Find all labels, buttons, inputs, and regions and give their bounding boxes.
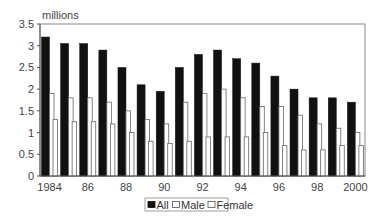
legend-label-female: Female [217,199,254,211]
bar-all [233,59,241,176]
bar-all [214,50,222,176]
x-tick-label: 92 [196,181,208,193]
bar-group-1991 [175,67,191,176]
bar-female [244,137,249,176]
bar-all [328,98,336,176]
bar-female [187,141,192,176]
bar-female [302,150,307,176]
y-tick-label: 3.5 [19,18,34,30]
bar-group-1989 [137,85,153,176]
x-tick-label: 86 [82,181,94,193]
legend: AllMaleFemale [145,198,253,211]
x-tick-label: 2000 [343,181,367,193]
bar-all [347,102,355,176]
bar-female [91,122,96,176]
legend-label-male: Male [181,199,205,211]
bar-group-1987 [99,50,115,176]
y-tick-label: 0 [28,170,34,182]
bar-group-1999 [328,98,344,176]
bar-female [149,141,154,176]
x-tick-label: 94 [235,181,247,193]
bar-group-1992 [194,54,210,176]
bar-all [61,44,69,176]
x-tick-label: 90 [158,181,170,193]
bar-chart: 00.511.522.533.5 1984868890929496982000 … [0,0,382,220]
bar-all [118,67,126,176]
legend-label-all: All [157,199,169,211]
bar-all [252,63,260,176]
bar-female [225,137,230,176]
x-tick-label: 1984 [37,181,61,193]
bar-all [80,44,88,176]
bar-group-1995 [252,63,268,176]
bar-group-1990 [156,91,172,176]
bar-female [282,146,287,176]
y-tick-label: 2.5 [19,61,34,73]
bar-all [271,76,279,176]
bar-all [137,85,145,176]
bar-all [175,67,183,176]
bar-all [194,54,202,176]
bar-group-1984 [42,37,58,176]
bar-female [340,146,345,176]
legend-swatch-male [173,202,180,208]
legend-swatch-female [208,202,215,208]
y-tick-label: 1.5 [19,105,34,117]
bar-all [156,91,164,176]
bar-group-1996 [271,76,287,176]
bar-female [129,133,134,176]
bars [42,37,364,176]
x-axis: 1984868890929496982000 [37,176,367,193]
legend-swatch-all [148,202,155,208]
x-tick-label: 98 [311,181,323,193]
bar-female [206,137,211,176]
bar-group-1986 [80,44,96,176]
bar-female [321,150,326,176]
x-tick-label: 88 [120,181,132,193]
bar-female [263,133,268,176]
bar-female [53,120,58,176]
bar-all [42,37,50,176]
y-tick-label: 0.5 [19,148,34,160]
y-tick-label: 2 [28,83,34,95]
bar-group-1997 [290,89,306,176]
bar-group-1994 [233,59,249,176]
bar-all [309,98,317,176]
bar-group-2000 [347,102,363,176]
x-tick-label: 96 [273,181,285,193]
bar-female [359,146,364,176]
bar-all [290,89,298,176]
y-tick-label: 1 [28,127,34,139]
bar-female [168,143,173,176]
bar-group-1985 [61,44,77,176]
bar-female [72,122,77,176]
bar-group-1998 [309,98,325,176]
bar-group-1988 [118,67,134,176]
unit-label: millions [42,9,79,21]
y-axis: 00.511.522.533.5 [19,18,40,182]
bar-all [99,50,107,176]
bar-group-1993 [214,50,230,176]
y-tick-label: 3 [28,40,34,52]
bar-female [110,124,115,176]
